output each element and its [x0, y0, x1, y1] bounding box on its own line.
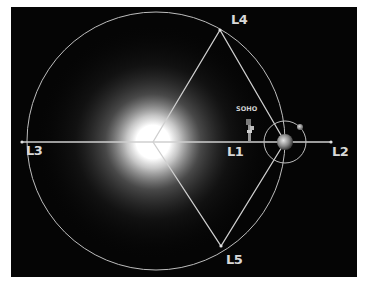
label-l4: L4: [231, 13, 247, 26]
earth: [277, 134, 293, 150]
l3-point: [20, 140, 23, 143]
l5-point: [219, 244, 222, 247]
l4-point: [218, 28, 221, 31]
moon: [297, 124, 303, 130]
label-l3: L3: [26, 144, 42, 157]
label-soho: SOHO: [236, 106, 257, 113]
lagrange-diagram: [0, 0, 366, 284]
label-l2: L2: [332, 145, 348, 158]
label-l1: L1: [227, 145, 243, 158]
label-l5: L5: [226, 253, 242, 266]
